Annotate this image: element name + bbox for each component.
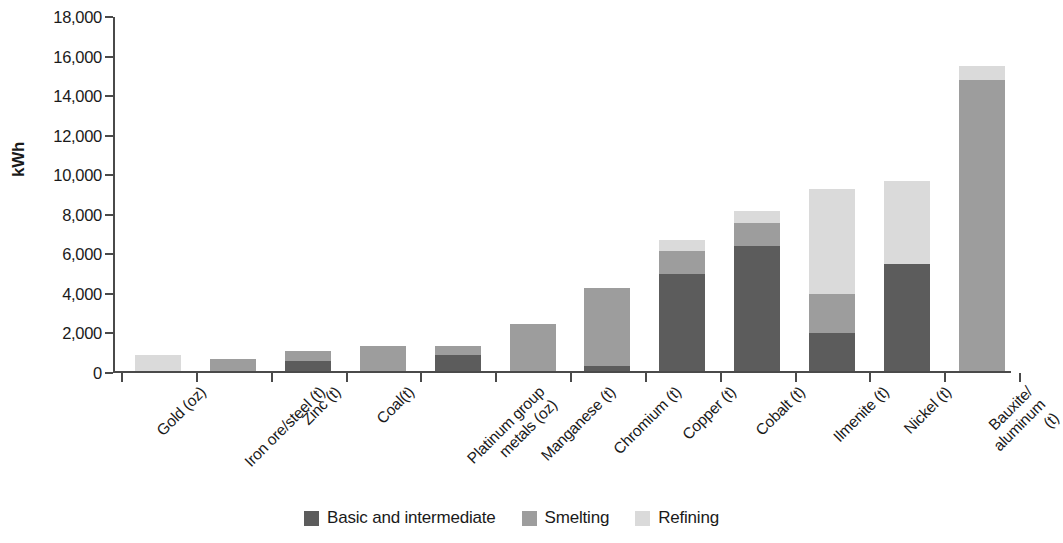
bar-stack[interactable] (584, 288, 630, 371)
y-axis-tick-label: 12,000 (30, 126, 102, 145)
y-axis-tick-label: 18,000 (30, 8, 102, 27)
bar-stack[interactable] (210, 359, 256, 371)
bar-segment-smelting[interactable] (584, 288, 630, 366)
bar-stack[interactable] (884, 181, 930, 371)
y-axis-tick-label: 2,000 (30, 324, 102, 343)
x-axis-category-label: Copper (t) (679, 383, 740, 444)
x-axis-category-label: Chromium (t) (610, 383, 685, 458)
y-axis-tick-label: 8,000 (30, 205, 102, 224)
x-axis-category-label: Gold (oz) (153, 383, 210, 440)
x-axis-category-label: Ilmenite (t) (829, 383, 892, 446)
bar-segment-smelting[interactable] (360, 346, 406, 371)
bar-stack[interactable] (809, 189, 855, 371)
y-axis-tick (105, 372, 113, 374)
x-axis-tick (645, 373, 647, 382)
bar-segment-basic[interactable] (734, 246, 780, 371)
bar-segment-basic[interactable] (809, 333, 855, 371)
bar-stack[interactable] (285, 351, 331, 371)
x-axis-tick (1019, 373, 1021, 382)
bar-segment-refining[interactable] (135, 355, 181, 371)
legend-label: Refining (658, 508, 719, 528)
bar-segment-refining[interactable] (734, 211, 780, 223)
y-axis-tick (105, 214, 113, 216)
x-axis-tick (720, 373, 722, 382)
y-axis-tick (105, 95, 113, 97)
bar-segment-smelting[interactable] (659, 251, 705, 274)
x-axis-tick (196, 373, 198, 382)
legend-item[interactable]: Smelting (522, 508, 610, 528)
y-axis-tick-label: 14,000 (30, 87, 102, 106)
legend-swatch-basic (304, 511, 319, 526)
x-axis-tick (346, 373, 348, 382)
legend-swatch-refining (635, 511, 650, 526)
bar-segment-smelting[interactable] (210, 359, 256, 371)
y-axis-tick-label: 4,000 (30, 284, 102, 303)
y-axis-title: kWh (9, 143, 29, 177)
bar-stack[interactable] (734, 211, 780, 371)
x-axis-tick (944, 373, 946, 382)
y-axis-tick (105, 253, 113, 255)
y-axis-tick (105, 56, 113, 58)
bar-segment-smelting[interactable] (510, 324, 556, 371)
bar-stack[interactable] (135, 355, 181, 371)
bar-segment-smelting[interactable] (734, 223, 780, 247)
y-axis-tick-label: 6,000 (30, 245, 102, 264)
bar-stack[interactable] (435, 346, 481, 371)
x-axis-category-label: Coal(t) (373, 383, 418, 428)
y-axis-tick (105, 174, 113, 176)
bar-segment-refining[interactable] (809, 189, 855, 294)
x-axis-category-label: Bauxite/ aluminum (t) (977, 383, 1062, 468)
x-axis-category-label: Nickel (t) (901, 383, 956, 438)
x-axis-tick (420, 373, 422, 382)
bar-segment-smelting[interactable] (285, 351, 331, 361)
x-axis-category-label: Cobalt (t) (752, 383, 809, 440)
x-axis-tick (570, 373, 572, 382)
bar-stack[interactable] (659, 240, 705, 371)
bar-stack[interactable] (360, 346, 406, 371)
bar-segment-basic[interactable] (435, 355, 481, 371)
legend-swatch-smelting (522, 511, 537, 526)
x-axis-tick (795, 373, 797, 382)
bar-segment-refining[interactable] (659, 240, 705, 251)
y-axis-line (113, 17, 115, 373)
bar-stack[interactable] (959, 66, 1005, 371)
y-axis-tick-label: 10,000 (30, 166, 102, 185)
bar-segment-refining[interactable] (959, 66, 1005, 80)
bar-segment-basic[interactable] (884, 264, 930, 371)
x-axis-tick (121, 373, 123, 382)
y-axis-tick-label: 16,000 (30, 47, 102, 66)
bar-segment-smelting[interactable] (809, 294, 855, 334)
y-axis-tick (105, 135, 113, 137)
y-axis-tick (105, 16, 113, 18)
chart-legend: Basic and intermediateSmeltingRefining (0, 508, 1023, 528)
bar-segment-smelting[interactable] (435, 346, 481, 355)
legend-label: Basic and intermediate (327, 508, 496, 528)
y-axis-tick-label: 0 (30, 364, 102, 383)
legend-label: Smelting (545, 508, 610, 528)
y-axis-tick (105, 332, 113, 334)
bar-segment-basic[interactable] (659, 274, 705, 371)
bar-segment-smelting[interactable] (959, 80, 1005, 371)
x-axis-line (113, 371, 1011, 373)
legend-item[interactable]: Refining (635, 508, 719, 528)
y-axis-tick (105, 293, 113, 295)
x-axis-tick (495, 373, 497, 382)
legend-item[interactable]: Basic and intermediate (304, 508, 496, 528)
bar-segment-basic[interactable] (584, 366, 630, 371)
x-axis-tick (271, 373, 273, 382)
y-axis-tick-labels: 02,0004,0006,0008,00010,00012,00014,0001… (30, 17, 102, 373)
x-axis-tick (869, 373, 871, 382)
bar-segment-refining[interactable] (884, 181, 930, 264)
x-axis-category-label: Manganese (t) (538, 383, 620, 465)
x-axis-category-label: Platinum group metals (oz) (464, 383, 562, 481)
bar-stack[interactable] (510, 324, 556, 371)
bar-segment-basic[interactable] (285, 361, 331, 371)
x-axis-category-label: Iron ore/steel (t) (241, 383, 329, 471)
plot-area (113, 17, 1011, 373)
